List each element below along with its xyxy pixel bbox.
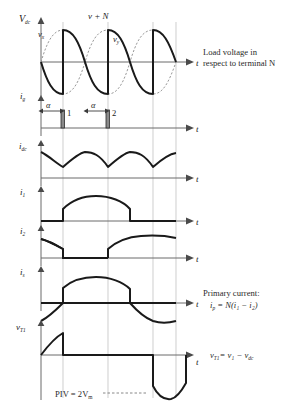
current-2-waveform-body (41, 239, 108, 258)
x-label-current-1: t (196, 217, 199, 227)
x-axis-arrow-gate (186, 125, 194, 132)
current-2-waveform-rise (108, 236, 176, 258)
y-axis-arrow-i1 (38, 186, 45, 192)
x-axis-arrow-vt1 (186, 352, 194, 359)
y-label-dc-current: idc (19, 141, 27, 152)
dc-current-waveform (41, 152, 176, 167)
y-label-source-current: is (20, 267, 25, 278)
x-axis-arrow-i2 (186, 255, 194, 262)
y-axis-arrow (38, 17, 45, 24)
y-axis-arrow-is (38, 266, 45, 272)
y-label-current-1: i1 (20, 187, 26, 198)
alpha-dimension-1 (39, 108, 65, 113)
plot-thyristor-voltage: vT1 t PIV = 2Vm vT1= v₁ − vdc (16, 320, 254, 400)
waveform-svg: Vdc v + N vx vy t Load voltage in respec… (0, 0, 289, 419)
plot-gate-current: ig α α 1 2 t (20, 91, 199, 136)
pulse-label-2: 2 (112, 108, 116, 118)
source-current-positive-block (63, 277, 130, 303)
plot-dc-current: idc t (19, 140, 199, 186)
equation-primary-current: ip = N(i₁ − i₂) (210, 300, 258, 311)
annotation-load-voltage-line2: respect to terminal N (203, 58, 276, 68)
y-label-thyristor-voltage: vT1 (16, 322, 26, 333)
plot-source-current: is t Primary current: ip = N(i₁ − i₂) (20, 266, 260, 323)
x-label-source-current: t (196, 299, 199, 309)
y-label-gate-current: ig (20, 91, 26, 102)
pulse-label-1: 1 (67, 108, 71, 118)
piv-label: PIV = 2Vm (55, 389, 93, 400)
label-vx: vx (38, 29, 45, 40)
y-label-current-2: i2 (20, 226, 26, 237)
current-1-waveform (41, 196, 176, 221)
waveform-figure: Vdc v + N vx vy t Load voltage in respec… (0, 0, 289, 419)
y-axis-arrow-i2 (38, 225, 45, 231)
equation-thyristor-voltage: vT1= v₁ − vdc (210, 350, 254, 361)
plot-load-voltage: Vdc v + N vx vy t Load voltage in respec… (19, 11, 276, 96)
x-axis-arrow-dc (186, 175, 194, 182)
x-axis-arrow (186, 59, 194, 66)
y-axis-arrow-dc (38, 140, 45, 146)
annotation-load-voltage-line1: Load voltage in (203, 47, 258, 57)
alpha-label-2: α (91, 101, 96, 110)
alpha-dimension-2 (84, 108, 110, 113)
plot-current-2: i2 t (20, 225, 199, 266)
y-axis-arrow-vt1 (38, 320, 45, 326)
source-current-negative-start (41, 303, 63, 321)
x-label-thyristor-voltage: t (196, 357, 199, 367)
x-label-load-voltage: t (196, 58, 199, 68)
plot-current-1: i1 t (20, 186, 199, 229)
x-label-gate-current: t (196, 124, 199, 134)
x-label-dc-current: t (196, 174, 199, 184)
label-v-plus-n: v + N (88, 11, 110, 21)
y-label-load-voltage: Vdc (19, 13, 31, 25)
annotation-primary-current: Primary current: (203, 288, 260, 298)
alpha-label-1: α (46, 101, 51, 110)
x-label-current-2: t (196, 254, 199, 264)
x-axis-arrow-is (186, 300, 194, 307)
y-axis-arrow-gate (38, 95, 45, 101)
alignment-gridlines (63, 22, 176, 398)
x-axis-arrow-i1 (186, 218, 194, 225)
